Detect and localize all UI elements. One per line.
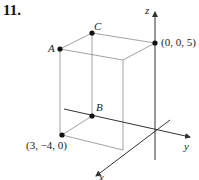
y-axis: [64, 109, 190, 137]
point-B: [89, 113, 94, 118]
label-top-point: (0, 0, 5): [161, 36, 196, 48]
label-bottom-point: (3, −4, 0): [26, 139, 67, 151]
box-edges: [60, 33, 155, 150]
x-axis: [96, 120, 170, 176]
point-A: [57, 46, 62, 51]
z-axis-label: z: [145, 4, 149, 16]
x-axis-label: x: [99, 171, 104, 180]
point-bottom: [59, 132, 64, 137]
label-B: B: [96, 101, 103, 113]
label-C: C: [94, 20, 101, 32]
y-axis-label: y: [184, 140, 189, 152]
points: [57, 30, 157, 137]
problem-number: 11.: [3, 2, 21, 19]
label-A: A: [48, 42, 55, 54]
point-top: [152, 40, 157, 45]
